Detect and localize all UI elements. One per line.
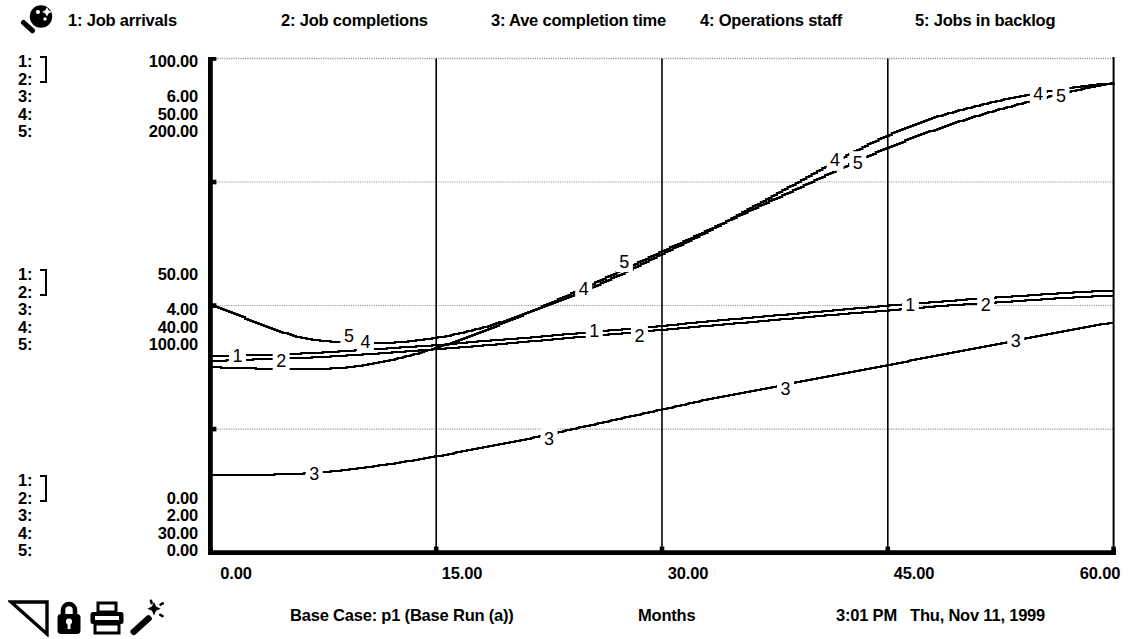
scale-row: 4: 30.00 (18, 525, 198, 543)
clock-time: 3:01 PM (836, 606, 897, 625)
scale-key: 1: (18, 472, 32, 490)
scale-value[interactable]: 200.00 (149, 123, 198, 141)
scale-key: 2: (18, 284, 32, 302)
scale-row: 4: 50.00 (18, 106, 198, 124)
xtick-label-60: 60.00 (1080, 564, 1120, 583)
curve-number-2: 2 (981, 295, 991, 315)
curve-number-1: 1 (589, 321, 599, 341)
scale-value[interactable]: 100.00 (149, 336, 198, 354)
curve-number-2: 2 (634, 326, 644, 346)
clock-date: Thu, Nov 11, 1999 (910, 606, 1045, 625)
scale-key: 5: (18, 123, 32, 141)
run-label: Base Case: p1 (Base Run (a)) (290, 606, 514, 625)
curve-number-4: 4 (1033, 84, 1043, 104)
status-bar: Base Case: p1 (Base Run (a)) Months 3:01… (0, 596, 1136, 639)
legend-entry-2: 2: Job completions (281, 11, 428, 30)
curve-number-5: 5 (853, 153, 863, 173)
bottom-scale-labels: 1: 2: 0.00 3: 2.00 4: 30.00 5: 0.00 (18, 472, 198, 560)
legend-bar: 1: Job arrivals 2: Job completions 3: Av… (0, 0, 1136, 44)
xtick-label-45: 45.00 (894, 564, 934, 583)
scale-key: 3: (18, 507, 32, 525)
xtick-label-30: 30.00 (668, 564, 708, 583)
top-scale-labels: 1: 100.00 2: 3: 6.00 4: 50.00 5: 200.00 (18, 53, 198, 141)
x-axis-title: Months (638, 606, 695, 625)
curve-number-3: 3 (780, 379, 790, 399)
scale-row: 2: (18, 71, 198, 89)
curve-number-5: 5 (619, 252, 629, 272)
legend-entry-4: 4: Operations staff (700, 11, 842, 30)
scale-row: 4: 40.00 (18, 319, 198, 337)
scale-row: 5: 100.00 (18, 336, 198, 354)
curve-number-1: 1 (232, 346, 242, 366)
scale-value[interactable]: 0.00 (167, 490, 198, 508)
curve-number-1: 1 (905, 295, 915, 315)
scale-row: 5: 200.00 (18, 123, 198, 141)
scale-key: 2: (18, 71, 32, 89)
scale-key: 5: (18, 542, 32, 560)
scale-row: 2: (18, 284, 198, 302)
scale-key: 1: (18, 266, 32, 284)
scale-key: 4: (18, 525, 32, 543)
scale-value[interactable]: 50.00 (158, 106, 198, 124)
scale-row: 3: 2.00 (18, 507, 198, 525)
scale-value[interactable]: 2.00 (167, 507, 198, 525)
curve-number-5: 5 (344, 326, 354, 346)
scale-key: 3: (18, 88, 32, 106)
lock-icon[interactable] (55, 599, 83, 637)
plot-canvas[interactable]: 111222333344445555 (208, 57, 1116, 555)
scale-value[interactable]: 0.00 (167, 542, 198, 560)
scale-row: 1: 50.00 (18, 266, 198, 284)
curve-number-4: 4 (360, 332, 370, 352)
middle-scale-labels: 1: 50.00 2: 3: 4.00 4: 40.00 5: 100.00 (18, 266, 198, 354)
curve-number-labels: 111222333344445555 (229, 82, 1069, 484)
page-flip-icon[interactable] (8, 599, 50, 637)
scale-key: 1: (18, 53, 32, 71)
scale-key: 3: (18, 301, 32, 319)
legend-entry-3: 3: Ave completion time (491, 11, 666, 30)
wand-icon[interactable] (126, 599, 166, 637)
scale-value[interactable]: 4.00 (167, 301, 198, 319)
scale-key: 4: (18, 106, 32, 124)
xtick-label-0: 0.00 (220, 564, 251, 583)
curve-number-4: 4 (830, 150, 840, 170)
xtick-label-15: 15.00 (442, 564, 482, 583)
scale-row: 5: 0.00 (18, 542, 198, 560)
curve-number-5: 5 (1056, 86, 1066, 106)
curve-number-2: 2 (276, 351, 286, 371)
scale-key: 2: (18, 490, 32, 508)
scale-value[interactable]: 6.00 (167, 88, 198, 106)
printer-icon[interactable] (88, 599, 126, 637)
curve-number-3: 3 (1011, 331, 1021, 351)
scale-key: 5: (18, 336, 32, 354)
scale-row: 1: 100.00 (18, 53, 198, 71)
scale-value[interactable]: 40.00 (158, 319, 198, 337)
plot-area[interactable]: 111222333344445555 (208, 57, 1116, 555)
scale-row: 2: 0.00 (18, 490, 198, 508)
scale-key: 4: (18, 319, 32, 337)
scale-row: 3: 4.00 (18, 301, 198, 319)
legend-entry-5: 5: Jobs in backlog (915, 11, 1055, 30)
scale-value[interactable]: 100.00 (149, 53, 198, 71)
scale-row: 3: 6.00 (18, 88, 198, 106)
scale-row: 1: (18, 472, 198, 490)
magnifier-icon[interactable] (14, 4, 58, 40)
scale-value[interactable]: 30.00 (158, 525, 198, 543)
scale-value[interactable]: 50.00 (158, 266, 198, 284)
legend-entry-1: 1: Job arrivals (68, 11, 177, 30)
curve-number-4: 4 (579, 279, 589, 299)
curve-number-3: 3 (309, 464, 319, 484)
curve-number-3: 3 (544, 429, 554, 449)
